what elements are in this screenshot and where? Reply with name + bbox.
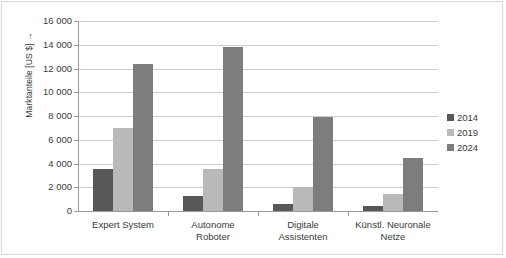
bar-chart-figure: Marktanteile [US $] → 02 0004 0006 0008 …: [0, 0, 506, 258]
x-axis-separator: [258, 212, 259, 216]
y-axis-tick-mark: [74, 21, 78, 22]
bar: [383, 194, 403, 211]
y-axis-tick-mark: [74, 140, 78, 141]
bar: [223, 47, 243, 211]
x-axis-category-label-line: Netze: [340, 231, 446, 243]
bar: [403, 158, 423, 211]
x-axis-category-label-line: Künstl. Neuronale: [340, 219, 446, 231]
bar: [293, 187, 313, 211]
legend-swatch-icon: [447, 144, 454, 151]
gridline: [78, 116, 438, 117]
bar: [93, 169, 113, 211]
gridline: [78, 92, 438, 93]
legend-label: 2014: [457, 113, 478, 123]
y-axis-tick-mark: [74, 164, 78, 165]
y-axis-line: [78, 21, 79, 212]
x-axis-separator: [168, 212, 169, 216]
y-axis-tick-label: 14 000: [22, 40, 72, 50]
y-axis-tick-label: 4 000: [22, 159, 72, 169]
bar: [203, 169, 223, 211]
legend-label: 2019: [457, 128, 478, 138]
bar: [113, 128, 133, 211]
y-axis-tick-label: 12 000: [22, 64, 72, 74]
bar: [133, 64, 153, 211]
x-axis-category-label: Künstl. NeuronaleNetze: [340, 219, 446, 242]
x-axis-separator: [348, 212, 349, 216]
legend-item[interactable]: 2014: [447, 110, 499, 125]
y-axis-tick-label: 2 000: [22, 182, 72, 192]
y-axis-tick-mark: [74, 69, 78, 70]
y-axis-tick-mark: [74, 92, 78, 93]
bar: [313, 117, 333, 211]
y-axis-tick-label: 8 000: [22, 111, 72, 121]
legend: 201420192024: [447, 110, 499, 155]
legend-label: 2024: [457, 143, 478, 153]
y-axis-tick-label: 6 000: [22, 135, 72, 145]
y-axis-tick-mark: [74, 211, 78, 212]
plot-area: [78, 21, 438, 212]
legend-item[interactable]: 2019: [447, 125, 499, 140]
y-axis-tick-mark: [74, 116, 78, 117]
y-axis-tick-mark: [74, 187, 78, 188]
gridline: [78, 21, 438, 22]
bar: [183, 196, 203, 211]
y-axis-tick-label: 10 000: [22, 87, 72, 97]
y-axis-tick-label: 16 000: [22, 16, 72, 26]
bar: [273, 204, 293, 211]
gridline: [78, 69, 438, 70]
y-axis-tick-mark: [74, 45, 78, 46]
gridline: [78, 45, 438, 46]
y-axis-tick-label: 0: [22, 206, 72, 216]
bar: [363, 206, 383, 211]
legend-item[interactable]: 2024: [447, 140, 499, 155]
legend-swatch-icon: [447, 114, 454, 121]
legend-swatch-icon: [447, 129, 454, 136]
